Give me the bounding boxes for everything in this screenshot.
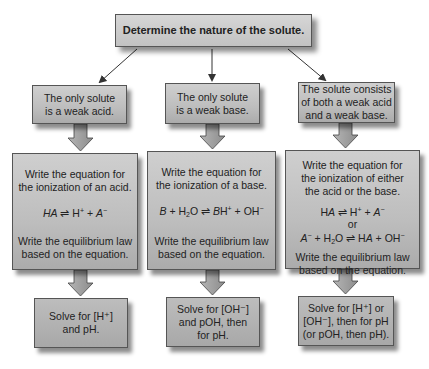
block-arrow-middle-2 xyxy=(200,270,225,295)
instruction-line: Write the equation for xyxy=(25,168,125,181)
equilibrium-arrow-icon: ⇌ xyxy=(346,232,355,244)
case-box-weak-acid: The only solute is a weak acid. xyxy=(32,85,127,124)
header-box: Determine the nature of the solute. xyxy=(115,14,312,47)
block-arrow-middle-1 xyxy=(200,124,225,149)
instruction-line: the ionization of a base. xyxy=(156,179,267,192)
solve-text-line: [OH⁻], then for pH xyxy=(303,315,388,328)
solve-text-line: and pH. xyxy=(63,323,100,336)
instruction-line: Write the equation for xyxy=(161,166,261,179)
case-text-line: The only solute xyxy=(44,92,115,105)
instruction-line: based on the equation. xyxy=(299,264,406,277)
case-text-line: The solute consists xyxy=(302,83,392,96)
solve-box-acid-or-base: Solve for [H⁺] or [OH⁻], then for pH (or… xyxy=(298,296,394,346)
case-text-line: is a weak base. xyxy=(176,104,248,117)
instruction-line: the ionization of either xyxy=(301,172,404,185)
steps-box-acid-or-base: Write the equation for the ionization of… xyxy=(285,150,420,269)
instruction-line: Write the equilibrium law xyxy=(18,235,132,248)
solve-text-line: (or pOH, then pH). xyxy=(303,328,389,341)
equilibrium-arrow-icon: ⇌ xyxy=(201,205,210,217)
solve-text-line: Solve for [H⁺] xyxy=(49,310,113,323)
solve-text-line: for pH. xyxy=(197,329,229,342)
steps-box-acid: Write the equation for the ionization of… xyxy=(12,153,138,270)
case-box-acid-and-base: The solute consists of both a weak acid … xyxy=(298,82,395,123)
block-arrow-left-2 xyxy=(68,270,93,296)
case-text-line: The only solute xyxy=(177,91,248,104)
solve-text-line: Solve for [OH⁻] xyxy=(177,303,249,316)
solve-box-acid: Solve for [H⁺] and pH. xyxy=(34,298,128,348)
equilibrium-arrow-icon: ⇌ xyxy=(60,207,69,219)
case-box-weak-base: The only solute is a weak base. xyxy=(165,83,260,124)
instruction-line: based on the equation. xyxy=(158,248,265,261)
acid-ionization-equation: HA ⇌ H+ + A− xyxy=(43,204,107,220)
instruction-line: Write the equilibrium law xyxy=(154,235,268,248)
instruction-line: Write the equilibrium law xyxy=(295,251,409,264)
connector-arrow-right xyxy=(288,49,325,80)
block-arrow-right-1 xyxy=(333,123,358,148)
solve-box-base: Solve for [OH⁻] and pOH, then for pH. xyxy=(166,297,260,347)
acid-ionization-equation: HA ⇌ H+ + A− xyxy=(320,203,384,219)
block-arrow-left-1 xyxy=(68,124,93,151)
equilibrium-arrow-icon: ⇌ xyxy=(338,206,347,218)
instruction-line: the ionization of an acid. xyxy=(18,181,131,194)
solve-text-line: and pOH, then xyxy=(179,316,247,329)
solve-text-line: Solve for [H⁺] or xyxy=(308,302,384,315)
instruction-line: based on the equation. xyxy=(22,248,129,261)
base-hydrolysis-equation: A− + H2O ⇌ HA + OH− xyxy=(301,229,405,248)
header-text: Determine the nature of the solute. xyxy=(123,24,305,37)
steps-box-base: Write the equation for the ionization of… xyxy=(147,151,276,270)
instruction-line: the acid or the base. xyxy=(305,185,400,198)
base-ionization-equation: B + H2O ⇌ BH+ + OH− xyxy=(159,202,263,221)
case-text-line: and a weak base. xyxy=(305,109,387,122)
equation-species: HA xyxy=(43,207,58,219)
instruction-line: Write the equation for xyxy=(302,159,402,172)
or-label: or xyxy=(348,219,357,229)
connector-arrow-left xyxy=(100,49,137,82)
case-text-line: is a weak acid. xyxy=(45,105,114,118)
case-text-line: of both a weak acid xyxy=(301,96,391,109)
